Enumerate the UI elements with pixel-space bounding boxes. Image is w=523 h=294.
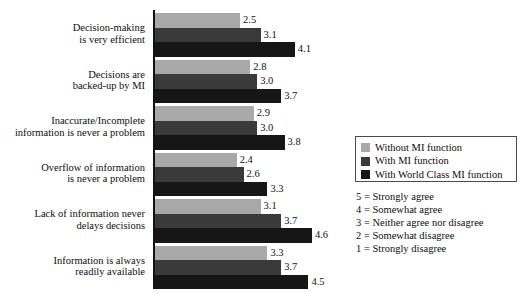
bar-row: 2.4 xyxy=(155,153,353,168)
bar-row: 3.8 xyxy=(155,135,353,150)
category-label-line: Decision-making xyxy=(73,22,145,34)
bar xyxy=(155,42,295,57)
bar xyxy=(155,60,251,75)
bar xyxy=(155,167,244,182)
legend-item: With MI function xyxy=(361,155,511,169)
category-label-line: Lack of information never xyxy=(35,208,146,220)
bar-row: 3.7 xyxy=(155,89,353,104)
scale-key-line: 4 = Somewhat agree xyxy=(356,203,521,216)
legend-label: Without MI function xyxy=(375,143,462,154)
bar xyxy=(155,153,237,168)
bar-row: 4.5 xyxy=(155,275,353,290)
scale-key-line: 5 = Strongly agree xyxy=(356,190,521,203)
category-label: Information is alwaysreadily available xyxy=(53,255,145,278)
scale-key: 5 = Strongly agree4 = Somewhat agree3 = … xyxy=(356,190,521,255)
bar-group: 2.53.14.1 xyxy=(155,13,353,57)
bar-row: 3.3 xyxy=(155,246,353,261)
bar xyxy=(155,28,261,43)
bar xyxy=(155,199,261,214)
bar-row: 3.1 xyxy=(155,28,353,43)
category-label-line: Decisions are xyxy=(73,69,145,81)
bar-group: 2.83.03.7 xyxy=(155,60,353,104)
category-label-line: is very efficient xyxy=(73,34,145,46)
plot-area: 2.53.14.12.83.03.72.93.03.82.42.63.33.13… xyxy=(153,10,353,289)
bar-value-label: 4.5 xyxy=(308,276,324,287)
bar-value-label: 2.9 xyxy=(254,108,270,119)
legend-swatch xyxy=(361,143,370,152)
bar-value-label: 3.8 xyxy=(285,137,301,148)
bar-row: 3.7 xyxy=(155,214,353,229)
bar-value-label: 3.3 xyxy=(267,247,283,258)
bar-value-label: 2.4 xyxy=(237,154,253,165)
bar xyxy=(155,246,268,261)
bar xyxy=(155,214,282,229)
category-label-line: Information is always xyxy=(53,255,145,267)
bar-value-label: 3.1 xyxy=(261,201,277,212)
bar-group: 2.42.63.3 xyxy=(155,153,353,197)
bar-row: 2.6 xyxy=(155,167,353,182)
scale-key-line: 1 = Strongly disagree xyxy=(356,242,521,255)
category-label-line: delays decisions xyxy=(35,220,146,232)
bar-row: 3.3 xyxy=(155,182,353,197)
bar-row: 3.7 xyxy=(155,260,353,275)
category-label: Inaccurate/Incompleteinformation is neve… xyxy=(15,115,145,138)
bar-value-label: 2.6 xyxy=(244,169,260,180)
legend-label: With World Class MI function xyxy=(375,170,502,181)
bar-value-label: 3.3 xyxy=(267,183,283,194)
bar xyxy=(155,121,258,136)
bar-value-label: 3.7 xyxy=(281,90,297,101)
category-label: Decisions arebacked-up by MI xyxy=(73,69,145,92)
bar-value-label: 3.0 xyxy=(257,122,273,132)
chart-container: Decision-makingis very efficientDecision… xyxy=(0,0,523,294)
category-axis-labels: Decision-makingis very efficientDecision… xyxy=(0,10,150,289)
category-label-line: readily available xyxy=(53,266,145,278)
bar-value-label: 3.0 xyxy=(257,76,273,87)
bar-value-label: 3.7 xyxy=(281,262,297,273)
bar-row: 2.8 xyxy=(155,60,353,75)
bar-value-label: 4.6 xyxy=(312,230,328,241)
category-label-line: Overflow of information xyxy=(41,162,145,174)
scale-key-line: 2 = Somewhat disagree xyxy=(356,229,521,242)
category-label: Decision-makingis very efficient xyxy=(73,22,145,45)
legend-item: With World Class MI function xyxy=(361,168,511,182)
bar xyxy=(155,228,312,243)
bar xyxy=(155,13,241,28)
bar xyxy=(155,260,282,275)
bar-row: 4.1 xyxy=(155,42,353,57)
legend-swatch xyxy=(361,170,370,179)
category-label-line: is never a problem xyxy=(41,173,145,185)
bar-value-label: 2.5 xyxy=(240,15,256,26)
bar xyxy=(155,106,254,121)
category-label-line: backed-up by MI xyxy=(73,80,145,92)
category-label: Overflow of informationis never a proble… xyxy=(41,162,145,185)
bar-row: 2.9 xyxy=(155,106,353,121)
bar xyxy=(155,74,258,89)
bar-group: 3.13.74.6 xyxy=(155,199,353,243)
bar xyxy=(155,89,282,104)
bar-value-label: 4.1 xyxy=(295,44,311,55)
bar xyxy=(155,135,285,150)
bar-value-label: 3.1 xyxy=(261,29,277,40)
category-label: Lack of information neverdelays decision… xyxy=(35,208,146,231)
legend: Without MI functionWith MI functionWith … xyxy=(355,136,517,182)
legend-swatch xyxy=(361,157,370,166)
category-label-line: Inaccurate/Incomplete xyxy=(15,115,145,127)
bar-row: 2.5 xyxy=(155,13,353,28)
bar xyxy=(155,275,309,290)
bar-row: 3.1 xyxy=(155,199,353,214)
scale-key-line: 3 = Neither agree nor disagree xyxy=(356,216,521,229)
bar-groups: 2.53.14.12.83.03.72.93.03.82.42.63.33.13… xyxy=(155,10,353,289)
bar-row: 3.0 xyxy=(155,121,353,136)
bar-row: 4.6 xyxy=(155,228,353,243)
bar-value-label: 3.7 xyxy=(281,215,297,226)
bar-row: 3.0 xyxy=(155,74,353,89)
legend-item: Without MI function xyxy=(361,141,511,155)
legend-label: With MI function xyxy=(375,156,449,167)
bar-value-label: 2.8 xyxy=(250,61,266,72)
bar-group: 2.93.03.8 xyxy=(155,106,353,150)
bar-group: 3.33.74.5 xyxy=(155,246,353,290)
category-label-line: information is never a problem xyxy=(15,127,145,139)
bar xyxy=(155,182,268,197)
